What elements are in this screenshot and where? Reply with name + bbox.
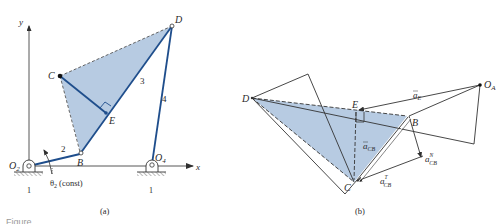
label-vector-a-e: aE	[413, 90, 422, 101]
point-oa	[478, 83, 482, 87]
caption-a: (a)	[100, 206, 110, 216]
label-b-b: B	[412, 117, 418, 128]
figure-a-mechanism: y x	[9, 14, 200, 216]
label-vector-a-cb-normal: aNCB	[425, 152, 437, 166]
figure-b-acceleration-polygon: D E B C OA aE aCB aNCB aTCB (b)	[241, 74, 496, 216]
figure-caption-cropped: Figure ...	[6, 218, 236, 224]
joint-b	[79, 151, 83, 155]
caption-b: (b)	[355, 206, 365, 216]
construction-line-oa-down	[474, 85, 480, 144]
label-c: C	[48, 70, 55, 81]
x-axis-label: x	[195, 162, 200, 172]
y-axis-label: y	[18, 17, 23, 27]
label-ground-left: 1	[27, 186, 31, 195]
joint-d	[170, 24, 174, 28]
label-theta-2: θ2(const)	[50, 178, 83, 189]
label-ground-right: 1	[149, 186, 153, 195]
label-d: D	[174, 14, 183, 25]
acceleration-image-shaded	[252, 98, 407, 182]
label-link-3: 3	[140, 76, 145, 86]
joint-c	[58, 74, 63, 79]
joint-e	[104, 111, 108, 115]
diagram-canvas: y x	[0, 0, 501, 224]
label-e-b: E	[351, 99, 358, 110]
figure-stage: y x	[0, 0, 501, 224]
label-c-b: C	[344, 182, 351, 193]
label-e: E	[108, 115, 115, 126]
label-o2: O2	[9, 160, 20, 173]
label-link-2: 2	[61, 144, 66, 154]
label-link-4: 4	[162, 94, 167, 104]
label-oa: OA	[484, 79, 496, 92]
point-d-b	[251, 97, 253, 99]
label-d-b: D	[241, 93, 250, 104]
construction-line-d-top	[252, 74, 308, 98]
link-2-crank	[29, 154, 80, 166]
label-vector-a-cb-tangential: aTCB	[380, 174, 392, 188]
label-b: B	[77, 157, 83, 168]
